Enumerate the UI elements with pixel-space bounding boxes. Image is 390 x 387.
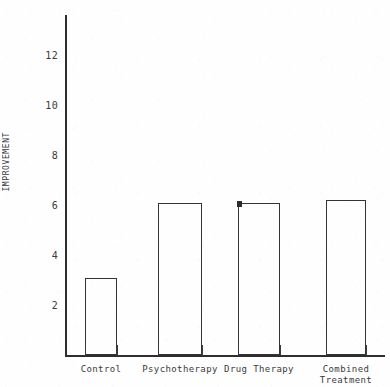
- bar: [158, 203, 202, 356]
- y-axis-line: [65, 15, 67, 357]
- bar: [326, 200, 366, 355]
- y-axis-title: IMPROVEMENT: [2, 132, 18, 192]
- bar: [85, 278, 117, 356]
- y-axis-tick-label: 10: [34, 100, 58, 111]
- x-axis-tick: [326, 345, 327, 356]
- x-axis-tick: [280, 345, 281, 356]
- y-axis-tick-labels: 24681012: [28, 0, 58, 387]
- x-axis-tick: [366, 345, 367, 356]
- data-point-marker: [237, 201, 242, 207]
- x-axis-line: [65, 355, 385, 357]
- x-axis-tick: [238, 345, 239, 356]
- x-axis-category-label: Combined Treatment: [320, 364, 372, 386]
- y-axis-tick-label: 2: [34, 300, 58, 311]
- y-axis-tick-label: 4: [34, 250, 58, 261]
- y-axis-tick-label: 12: [34, 50, 58, 61]
- x-axis-tick: [117, 345, 118, 356]
- y-axis-tick-label: 6: [34, 200, 58, 211]
- x-axis-category-label: Control: [81, 364, 122, 375]
- x-axis-tick: [202, 345, 203, 356]
- x-axis-category-label: Psychotherapy: [142, 364, 218, 375]
- bar-chart: IMPROVEMENT 24681012 ControlPsychotherap…: [0, 0, 390, 387]
- bar: [238, 203, 280, 356]
- x-axis-tick: [158, 345, 159, 356]
- x-axis-category-label: Drug Therapy: [224, 364, 294, 375]
- y-axis-tick-label: 8: [34, 150, 58, 161]
- x-axis-tick: [85, 345, 86, 356]
